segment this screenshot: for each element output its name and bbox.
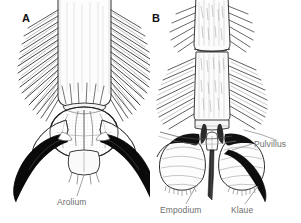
label-arolium: Arolium	[57, 198, 87, 207]
label-klaue: Klaue	[231, 206, 253, 215]
panel-a	[0, 0, 150, 223]
panel-b	[150, 0, 301, 223]
panel-b-letter: B	[152, 13, 160, 24]
label-pulvillus: Pulvillus	[254, 140, 286, 149]
figure-container: A Arolium B Empodium Klaue Pulvillus	[0, 0, 301, 223]
panel-a-letter: A	[22, 13, 30, 24]
label-empodium: Empodium	[160, 206, 201, 215]
